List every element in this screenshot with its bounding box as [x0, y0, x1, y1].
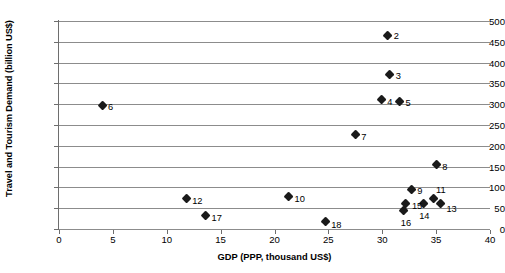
data-point-label: 5 — [405, 98, 410, 108]
diamond-marker-icon — [431, 160, 441, 170]
x-axis-tick-label: 25 — [313, 234, 343, 245]
diamond-marker-icon — [350, 130, 360, 140]
data-point-label: 6 — [108, 102, 113, 112]
gridline — [59, 104, 490, 105]
x-axis-tick-mark — [436, 230, 437, 234]
x-axis-tick-mark — [113, 230, 114, 234]
gridline — [59, 63, 490, 64]
data-point-label: 10 — [295, 194, 305, 204]
diamond-marker-icon — [383, 30, 393, 40]
diamond-marker-icon — [406, 184, 416, 194]
gridline — [59, 208, 490, 209]
diamond-marker-icon — [385, 69, 395, 79]
x-axis-tick-mark — [167, 230, 168, 234]
x-axis-tick-mark — [275, 230, 276, 234]
data-point-label: 14 — [419, 211, 429, 221]
data-point-label: 18 — [331, 220, 341, 230]
x-axis-tick-label: 20 — [260, 234, 290, 245]
gridline — [59, 21, 490, 22]
x-axis-tick-mark — [221, 230, 222, 234]
gridline — [59, 42, 490, 43]
diamond-marker-icon — [399, 205, 409, 215]
data-point-label: 3 — [396, 71, 401, 81]
plot-area: 23456789101112131415161718 — [59, 21, 490, 229]
x-axis-tick-mark — [328, 230, 329, 234]
diamond-marker-icon — [181, 194, 191, 204]
gridline — [59, 167, 490, 168]
data-point-label: 12 — [192, 196, 202, 206]
data-point-label: 15 — [412, 201, 422, 211]
x-axis-tick-label: 10 — [152, 234, 182, 245]
x-axis-tick-label: 15 — [206, 234, 236, 245]
diamond-marker-icon — [283, 191, 293, 201]
data-point-label: 16 — [401, 218, 411, 228]
gridline — [59, 83, 490, 84]
gridline — [59, 187, 490, 188]
y-axis-title: Travel and Tourism Demand (billion US$) — [0, 0, 18, 245]
data-point-label: 4 — [387, 97, 392, 107]
data-point-label: 9 — [417, 186, 422, 196]
gridline — [59, 146, 490, 147]
data-point-label: 13 — [446, 204, 456, 214]
x-axis-tick-label: 0 — [44, 234, 74, 245]
diamond-marker-icon — [97, 100, 107, 110]
x-axis-tick-mark — [59, 230, 60, 234]
data-point-label: 17 — [212, 213, 222, 223]
x-axis-tick-label: 30 — [367, 234, 397, 245]
diamond-marker-icon — [200, 210, 210, 220]
gridline — [59, 125, 490, 126]
data-point-label: 8 — [442, 162, 447, 172]
data-point-label: 7 — [361, 132, 366, 142]
diamond-marker-icon — [320, 216, 330, 226]
data-point-label: 2 — [394, 31, 399, 41]
gridline — [59, 229, 490, 230]
scatter-chart: Travel and Tourism Demand (billion US$) … — [0, 0, 505, 273]
x-axis-title: GDP (PPP, thousand US$) — [59, 252, 490, 262]
x-axis-tick-mark — [382, 230, 383, 234]
x-axis-tick-label: 35 — [421, 234, 451, 245]
x-axis-tick-label: 5 — [98, 234, 128, 245]
data-point-label: 11 — [436, 185, 446, 195]
x-axis-tick-label: 40 — [475, 234, 505, 245]
x-axis-tick-mark — [490, 230, 491, 234]
diamond-marker-icon — [376, 95, 386, 105]
